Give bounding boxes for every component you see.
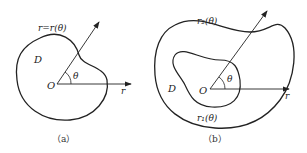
inner-curve-label-b: r₁(θ) bbox=[197, 113, 218, 123]
curve-label-a: r=r(θ) bbox=[38, 23, 67, 33]
polar-region-figure: r=r(θ) D O θ r （a） r₂(θ) r₁(θ) D O θ r （… bbox=[0, 0, 307, 153]
angle-label-b: θ bbox=[227, 74, 233, 84]
figure-b: r₂(θ) r₁(θ) D O θ r （b） bbox=[155, 11, 294, 144]
caption-a: （a） bbox=[52, 134, 75, 144]
axis-label-b: r bbox=[285, 91, 290, 101]
caption-b: （b） bbox=[203, 134, 227, 144]
region-label-b: D bbox=[167, 83, 176, 94]
diagram-canvas: r=r(θ) D O θ r （a） r₂(θ) r₁(θ) D O θ r （… bbox=[0, 0, 307, 153]
ray-theta-b bbox=[210, 11, 267, 89]
angle-arc-b bbox=[219, 77, 225, 89]
angle-arc-a bbox=[65, 72, 71, 84]
figure-a: r=r(θ) D O θ r （a） bbox=[16, 22, 131, 144]
region-label-a: D bbox=[33, 54, 42, 65]
origin-label-a: O bbox=[47, 80, 55, 91]
outer-curve-label-b: r₂(θ) bbox=[197, 16, 218, 26]
outer-boundary-curve-b bbox=[155, 21, 294, 129]
angle-label-a: θ bbox=[73, 71, 79, 81]
axis-label-a: r bbox=[121, 86, 126, 96]
origin-label-b: O bbox=[199, 85, 207, 96]
